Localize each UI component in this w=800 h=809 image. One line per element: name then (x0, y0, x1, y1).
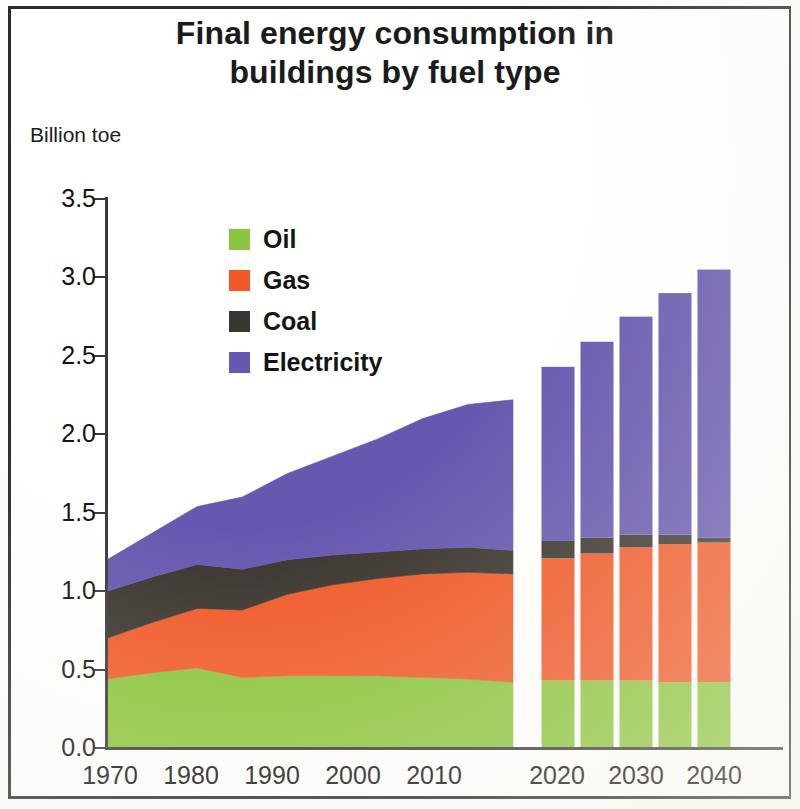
legend-swatch-coal-icon (229, 311, 250, 332)
x-axis-tick-label-2020: 2020 (512, 763, 602, 788)
bar-2030-oil (620, 681, 653, 748)
bar-2040-coal (698, 538, 731, 543)
x-axis-tick-label-2000: 2000 (308, 763, 398, 788)
legend-item-electricity[interactable]: Electricity (229, 342, 383, 383)
bar-2035-electricity (659, 293, 692, 535)
bar-2035-oil (659, 682, 692, 748)
y-axis-tick-label-0-0: 0.0 (26, 735, 96, 760)
y-axis-tick-label-3-5: 3.5 (26, 186, 96, 211)
chart-page: Final energy consumption in buildings by… (0, 0, 800, 809)
legend-label-electricity: Electricity (263, 350, 383, 375)
bar-2025-coal (581, 538, 614, 554)
legend-item-coal[interactable]: Coal (229, 301, 383, 342)
y-axis-tick-label-3-0: 3.0 (26, 264, 96, 289)
y-axis-tick-label-0-5: 0.5 (26, 657, 96, 682)
stacked-area-and-bars (0, 0, 800, 809)
legend-item-gas[interactable]: Gas (229, 260, 383, 301)
x-axis-tick-label-2010: 2010 (389, 763, 479, 788)
bar-2020-electricity (542, 367, 575, 541)
legend-item-oil[interactable]: Oil (229, 219, 383, 260)
bar-2020-gas (542, 558, 575, 680)
bar-2040-oil (698, 682, 731, 748)
legend-swatch-electricity-icon (229, 352, 250, 373)
bar-2040-electricity (698, 270, 731, 538)
x-axis-tick-label-2040: 2040 (669, 763, 759, 788)
bar-2025-electricity (581, 342, 614, 538)
legend-swatch-gas-icon (229, 270, 250, 291)
legend-label-oil: Oil (263, 227, 296, 252)
y-axis-tick-label-1-0: 1.0 (26, 578, 96, 603)
bar-2020-coal (542, 541, 575, 558)
y-axis-tick-label-2-0: 2.0 (26, 421, 96, 446)
bar-2025-gas (581, 553, 614, 680)
x-axis-tick-label-1980: 1980 (146, 763, 236, 788)
bar-2030-gas (620, 547, 653, 680)
bar-2030-coal (620, 535, 653, 548)
bar-2035-coal (659, 535, 692, 544)
legend-label-coal: Coal (263, 309, 317, 334)
x-axis-line (105, 747, 783, 750)
bar-2020-oil (542, 681, 575, 748)
area-series-oil (107, 668, 513, 748)
bar-2040-gas (698, 543, 731, 683)
x-axis-tick-label-2030: 2030 (591, 763, 681, 788)
bar-2025-oil (581, 681, 614, 748)
x-axis-tick-label-1990: 1990 (227, 763, 317, 788)
chart-legend: OilGasCoalElectricity (229, 219, 383, 383)
y-axis-tick-label-2-5: 2.5 (26, 343, 96, 368)
x-axis-tick-label-1970: 1970 (65, 763, 155, 788)
plot-area: 0.00.51.01.52.02.53.03.5 197019801990200… (0, 0, 800, 809)
y-axis-line (105, 197, 108, 750)
y-axis-tick-label-1-5: 1.5 (26, 500, 96, 525)
bar-2035-gas (659, 544, 692, 682)
legend-swatch-oil-icon (229, 229, 250, 250)
bar-2030-electricity (620, 317, 653, 535)
legend-label-gas: Gas (263, 268, 310, 293)
